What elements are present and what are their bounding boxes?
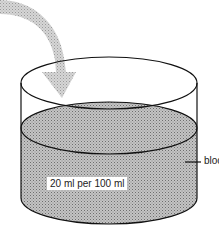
diagram-canvas (0, 0, 219, 233)
curved-arrow-icon (0, 0, 76, 98)
blood-label: blood (182, 155, 206, 166)
blood-label-text: blood (204, 155, 219, 166)
concentration-label: 20 ml per 100 ml (47, 177, 127, 190)
liquid (21, 102, 197, 224)
